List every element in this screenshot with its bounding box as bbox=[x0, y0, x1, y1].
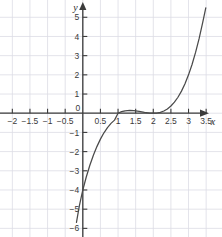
y-tick-label: −4 bbox=[70, 185, 80, 195]
x-tick-label: 1.5 bbox=[130, 116, 142, 126]
x-tick-label: −1.5 bbox=[22, 116, 39, 126]
x-tick-label: −0.5 bbox=[57, 116, 74, 126]
x-axis-label: x bbox=[210, 116, 216, 127]
y-tick-label: 5 bbox=[75, 12, 80, 22]
x-tick-label: 0.5 bbox=[95, 116, 107, 126]
y-tick-label: −6 bbox=[70, 223, 80, 233]
origin-label: 0 bbox=[76, 103, 81, 113]
y-axis-label: y bbox=[72, 2, 78, 13]
x-tick-label: 3 bbox=[186, 116, 191, 126]
y-tick-label: −3 bbox=[70, 166, 80, 176]
x-tick-label: −2 bbox=[7, 116, 17, 126]
grid-lines-vertical bbox=[12, 0, 206, 237]
x-tick-label: −1 bbox=[43, 116, 53, 126]
x-tick-label: 2 bbox=[151, 116, 156, 126]
y-tick-label: 1 bbox=[75, 89, 80, 99]
y-tick-label: −1 bbox=[70, 128, 80, 138]
cartesian-graph: −2−1.5−1−0.50.511.522.533.5 −6−5−4−3−2−1… bbox=[0, 0, 222, 237]
x-axis-ticks bbox=[12, 109, 206, 114]
y-tick-label: −2 bbox=[70, 147, 80, 157]
y-tick-label: 2 bbox=[75, 70, 80, 80]
y-axis-arrowhead bbox=[79, 2, 86, 10]
y-axis-ticks bbox=[83, 17, 88, 228]
y-tick-label: 3 bbox=[75, 51, 80, 61]
y-tick-label: 4 bbox=[75, 32, 80, 42]
plot-canvas: −2−1.5−1−0.50.511.522.533.5 −6−5−4−3−2−1… bbox=[0, 0, 222, 237]
x-tick-label: 2.5 bbox=[165, 116, 177, 126]
